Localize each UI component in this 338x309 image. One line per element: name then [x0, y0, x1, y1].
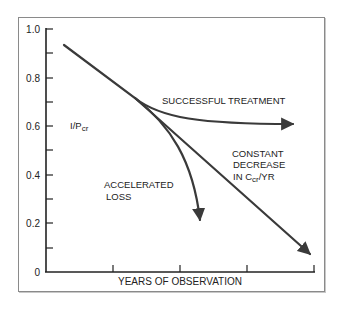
y-axis: 1.0 0.8 0.6 0.4 0.2 0	[26, 24, 53, 278]
annotation-constant-3: IN Ccr/YR	[233, 171, 275, 184]
annotation-accelerated-2: LOSS	[106, 191, 131, 202]
line-accelerated-loss	[135, 98, 200, 220]
y-tick-1-0: 1.0	[26, 24, 40, 35]
y-tick-0-8: 0.8	[26, 73, 40, 84]
y-tick-0: 0	[34, 267, 40, 278]
annotation-constant-2: DECREASE	[233, 159, 285, 170]
annotation-constant-1: CONSTANT	[232, 148, 284, 159]
y-tick-0-4: 0.4	[26, 170, 40, 181]
annotation-successful-treatment: SUCCESSFUL TREATMENT	[162, 95, 286, 106]
chart-svg: 1.0 0.8 0.6 0.4 0.2 0 YEARS OF OBSERVATI…	[0, 0, 338, 309]
x-axis: YEARS OF OBSERVATION	[45, 265, 315, 287]
annotation-accelerated-1: ACCELERATED	[104, 179, 174, 190]
y-axis-label: I/Pcr	[70, 120, 89, 133]
y-tick-0-6: 0.6	[26, 121, 40, 132]
y-tick-0-2: 0.2	[26, 218, 40, 229]
x-axis-label: YEARS OF OBSERVATION	[118, 276, 242, 287]
